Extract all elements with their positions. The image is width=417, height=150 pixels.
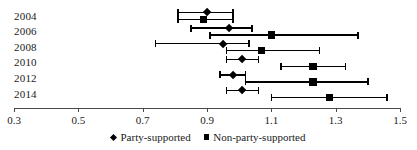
year-axis-label: 2010: [14, 57, 37, 68]
confidence-interval-cap: [367, 78, 369, 85]
diamond-marker-icon: [228, 71, 237, 80]
x-axis-tick: [336, 108, 337, 112]
forest-plot-chart: 200420062008201020122014 0.30.50.70.91.1…: [0, 0, 417, 150]
diamond-marker-icon: [225, 24, 234, 33]
legend-item-party-supported: Party-supported: [111, 131, 190, 143]
confidence-interval-line: [210, 34, 358, 36]
confidence-interval-cap: [271, 94, 273, 101]
confidence-interval-cap: [245, 78, 247, 85]
year-axis-label: 2006: [14, 26, 37, 37]
confidence-interval-line: [191, 27, 252, 29]
diamond-marker-icon: [238, 86, 247, 95]
confidence-interval-cap: [232, 16, 234, 23]
chart-legend: Party-supported Non-party-supported: [0, 131, 417, 143]
x-axis-tick: [143, 108, 144, 112]
confidence-interval-cap: [258, 87, 260, 94]
x-axis-tick-label: 0.3: [7, 114, 21, 126]
legend-label-non-party-supported: Non-party-supported: [213, 131, 305, 143]
x-axis-tick-label: 0.5: [71, 114, 85, 126]
square-marker-icon: [268, 31, 275, 38]
diamond-marker-icon: [110, 133, 117, 140]
x-axis-tick: [400, 108, 401, 112]
confidence-interval-cap: [209, 32, 211, 39]
confidence-interval-line: [246, 81, 368, 83]
confidence-interval-line: [226, 50, 319, 52]
x-axis-tick-label: 1.5: [393, 114, 407, 126]
legend-label-party-supported: Party-supported: [120, 131, 190, 143]
confidence-interval-cap: [248, 40, 250, 47]
confidence-interval-cap: [226, 47, 228, 54]
confidence-interval-cap: [155, 40, 157, 47]
confidence-interval-cap: [258, 56, 260, 63]
confidence-interval-cap: [345, 63, 347, 70]
square-marker-icon: [326, 94, 333, 101]
year-axis-label: 2014: [14, 89, 37, 100]
confidence-interval-cap: [219, 71, 221, 78]
square-marker-icon: [204, 134, 210, 140]
confidence-interval-cap: [280, 63, 282, 70]
square-marker-icon: [309, 78, 316, 85]
confidence-interval-cap: [177, 9, 179, 16]
x-axis-tick-label: 0.9: [200, 114, 214, 126]
x-axis-tick-label: 0.7: [136, 114, 150, 126]
x-axis-tick-label: 1.3: [329, 114, 343, 126]
confidence-interval-cap: [232, 9, 234, 16]
diamond-marker-icon: [238, 55, 247, 64]
plot-area: 200420062008201020122014: [0, 0, 417, 104]
square-marker-icon: [200, 16, 207, 23]
legend-item-non-party-supported: Non-party-supported: [204, 131, 306, 143]
year-axis-label: 2012: [14, 73, 37, 84]
confidence-interval-line: [156, 43, 249, 45]
confidence-interval-cap: [251, 25, 253, 32]
confidence-interval-cap: [226, 56, 228, 63]
x-axis-tick-label: 1.1: [264, 114, 278, 126]
x-axis-tick: [207, 108, 208, 112]
year-axis-label: 2004: [14, 11, 37, 22]
x-axis-tick: [271, 108, 272, 112]
year-axis-label: 2008: [14, 42, 37, 53]
confidence-interval-cap: [245, 71, 247, 78]
confidence-interval-cap: [386, 94, 388, 101]
x-axis-tick: [78, 108, 79, 112]
confidence-interval-cap: [177, 16, 179, 23]
confidence-interval-cap: [319, 47, 321, 54]
square-marker-icon: [309, 63, 316, 70]
confidence-interval-cap: [357, 32, 359, 39]
confidence-interval-cap: [226, 87, 228, 94]
square-marker-icon: [258, 47, 265, 54]
confidence-interval-cap: [190, 25, 192, 32]
x-axis-tick: [14, 108, 15, 112]
